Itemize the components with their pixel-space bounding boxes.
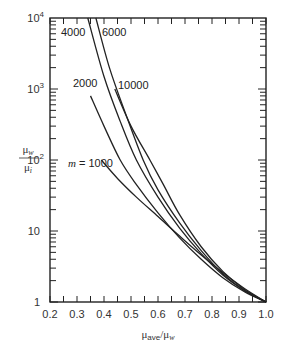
y-tick-label: 10 xyxy=(28,225,40,237)
y-num-sub: w xyxy=(28,148,34,157)
x-tick-labels: 0.20.30.40.50.60.70.80.91.0 xyxy=(42,308,273,320)
curve-2000 xyxy=(91,96,267,302)
curve-label-6000: 6000 xyxy=(102,26,126,38)
x-tick-label: 0.4 xyxy=(96,308,111,320)
curve-labels: m = 100020004000600010000 xyxy=(61,26,149,169)
curve-label-4000: 4000 xyxy=(61,26,85,38)
chart: 0.20.30.40.50.60.70.80.91.0 110102103104… xyxy=(0,0,286,356)
y-tick-base: 1 xyxy=(34,296,40,308)
x-tick-label: 0.2 xyxy=(42,308,57,320)
x-tick-label: 0.7 xyxy=(177,308,192,320)
y-tick-base: 10 xyxy=(27,83,39,95)
y-tick-label: 103 xyxy=(27,81,44,95)
x-label-sub1: ave xyxy=(147,333,160,342)
curve-label-value: = 1000 xyxy=(76,157,113,169)
curves xyxy=(88,18,266,302)
x-label-mid: /μ xyxy=(160,328,169,340)
curve-label-variable: m xyxy=(68,157,76,169)
curve-10000 xyxy=(115,89,266,302)
y-den-sub: i xyxy=(30,166,32,175)
y-tick-label: 104 xyxy=(27,10,44,24)
curve-label-2000: 2000 xyxy=(73,77,97,89)
x-tick-label: 0.9 xyxy=(231,308,246,320)
x-tick-label: 0.8 xyxy=(204,308,219,320)
y-tick-label: 1 xyxy=(34,296,40,308)
x-tick-label: 0.3 xyxy=(69,308,84,320)
curve-4000 xyxy=(88,18,266,302)
y-tick-exponent: 2 xyxy=(40,152,45,161)
y-tick-exponent: 4 xyxy=(40,10,45,19)
x-tick-label: 0.6 xyxy=(150,308,165,320)
y-tick-base: 10 xyxy=(28,225,40,237)
curve-6000 xyxy=(96,18,266,302)
y-tick-base: 10 xyxy=(27,12,39,24)
x-tick-label: 0.5 xyxy=(123,308,138,320)
x-label-sub2: w xyxy=(169,333,175,342)
curve-label-1000: m = 1000 xyxy=(68,157,113,169)
y-axis-label-numerator: μw xyxy=(22,143,34,157)
curve-1000 xyxy=(101,160,266,302)
y-tick-exponent: 3 xyxy=(40,81,45,90)
x-axis-label: μave/μw xyxy=(141,328,175,342)
curve-label-10000: 10000 xyxy=(118,79,149,91)
x-tick-label: 1.0 xyxy=(258,308,273,320)
y-tick-labels: 110102103104 xyxy=(27,10,44,308)
